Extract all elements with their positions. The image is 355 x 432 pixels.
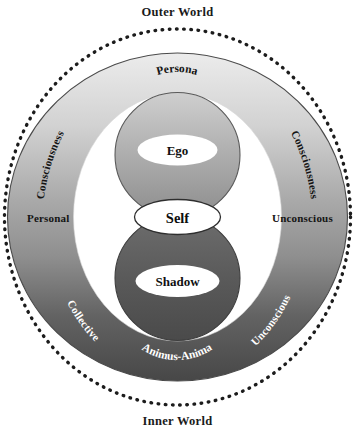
jungian-psyche-diagram: Outer World Consciousness Consciousness … <box>0 0 355 432</box>
label-ego: Ego <box>167 143 189 158</box>
label-unconscious-right: Unconscious <box>272 212 333 224</box>
label-self: Self <box>166 210 190 226</box>
outer-world-label: Outer World <box>142 5 214 19</box>
inner-world-label: Inner World <box>143 414 213 428</box>
label-personal: Personal <box>27 212 70 224</box>
label-shadow: Shadow <box>155 274 200 289</box>
psyche-diagram-svg: Outer World Consciousness Consciousness … <box>0 0 355 432</box>
